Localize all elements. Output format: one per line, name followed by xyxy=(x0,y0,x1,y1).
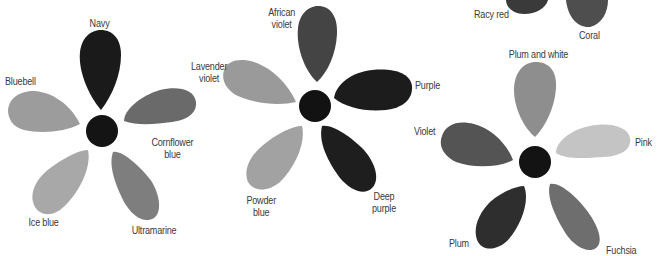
label-plum: Plum xyxy=(449,237,469,249)
label-lavender-violet: Lavender violet xyxy=(191,60,227,84)
purple-flower xyxy=(223,6,412,192)
label-ice-blue: Ice blue xyxy=(28,216,58,228)
petal-african-violet xyxy=(298,6,337,82)
petal-plum xyxy=(476,186,526,249)
label-violet: Violet xyxy=(414,125,435,137)
petal-powder-blue xyxy=(246,126,303,190)
petal-color-chart: Navy Bluebell Cornflower blue Ice blue U… xyxy=(0,0,666,256)
label-line: violet xyxy=(191,72,227,84)
label-purple: Purple xyxy=(415,79,440,91)
label-cornflower-blue: Cornflower blue xyxy=(151,136,193,160)
label-line: Cornflower xyxy=(151,136,193,148)
petal-purple xyxy=(334,70,412,111)
petal-navy xyxy=(80,30,121,110)
label-african-violet: African violet xyxy=(268,6,295,30)
label-plum-and-white: Plum and white xyxy=(509,48,568,60)
label-pink: Pink xyxy=(635,136,652,148)
label-navy: Navy xyxy=(90,17,110,29)
petal-cornflower-blue xyxy=(124,88,196,124)
petal-deep-purple xyxy=(321,126,376,192)
red-flower-partial xyxy=(506,0,608,27)
label-deep-purple: Deep purple xyxy=(372,190,396,214)
petal-violet xyxy=(441,123,513,167)
petal-fuchsia xyxy=(549,184,600,250)
label-line: blue xyxy=(151,148,193,160)
petal-plum-and-white xyxy=(514,62,556,137)
label-fuchsia: Fuchsia xyxy=(606,244,636,256)
petal-bluebell xyxy=(8,91,80,132)
pink-flower xyxy=(441,62,630,250)
label-racy-red: Racy red xyxy=(474,8,509,20)
label-line: Powder xyxy=(246,194,276,206)
petal-ice-blue xyxy=(32,150,88,214)
label-coral: Coral xyxy=(579,29,600,41)
label-powder-blue: Powder blue xyxy=(246,194,276,218)
petal-lavender-violet xyxy=(223,60,296,104)
petal-illustration xyxy=(0,0,666,256)
blue-flower xyxy=(8,30,196,220)
label-line: blue xyxy=(246,206,276,218)
label-ultramarine: Ultramarine xyxy=(132,224,177,236)
label-line: Lavender xyxy=(191,60,227,72)
label-bluebell: Bluebell xyxy=(5,75,36,87)
label-line: African xyxy=(268,6,295,18)
flower-center xyxy=(86,115,118,147)
petal-ultramarine xyxy=(111,152,159,220)
petal-pink xyxy=(556,125,630,159)
label-line: Deep xyxy=(372,190,396,202)
flower-center xyxy=(519,146,551,178)
petal-coral xyxy=(566,0,608,27)
label-line: violet xyxy=(268,18,295,30)
flower-center xyxy=(299,90,331,122)
petal-racy-red xyxy=(506,0,548,14)
label-line: purple xyxy=(372,202,396,214)
